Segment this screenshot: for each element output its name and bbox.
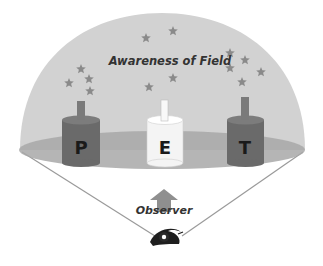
observer-label: Observer: [136, 204, 193, 217]
cylinder-letter-e: E: [159, 137, 171, 158]
cylinder-letter-p: P: [74, 137, 87, 158]
pet-awareness-diagram: Awareness of Field P E T Observer: [0, 0, 323, 266]
cylinder-letter-t: T: [239, 137, 252, 158]
eye-icon: [150, 229, 183, 246]
diagram-title: Awareness of Field: [108, 54, 232, 68]
